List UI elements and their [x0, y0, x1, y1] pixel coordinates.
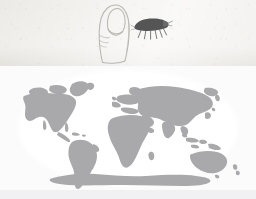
insect-silhouette: [128, 10, 176, 46]
figure-container: [0, 0, 256, 199]
map-bottom-band: [0, 190, 256, 199]
world-map-panel: [0, 66, 256, 199]
world-map: [0, 66, 256, 199]
scale-panel: [0, 0, 256, 66]
